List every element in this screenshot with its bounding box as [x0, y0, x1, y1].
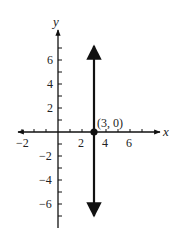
- y-tick-label: −6: [39, 197, 52, 211]
- x-axis-label: x: [162, 124, 169, 139]
- y-tick-label: −4: [39, 173, 52, 187]
- point-label: (3, 0): [97, 116, 123, 130]
- x-tick-label: 6: [126, 136, 132, 150]
- x-tick-label: 2: [78, 136, 84, 150]
- y-tick-label: 2: [47, 101, 53, 115]
- y-tick-label: 6: [47, 53, 53, 67]
- coordinate-plane: y x −2 2 4 6 6 4 2 −2 −4 −6 (3, 0): [0, 0, 174, 228]
- y-tick-label: 4: [47, 77, 53, 91]
- y-axis-label: y: [51, 14, 59, 29]
- x-tick-label: −2: [16, 136, 29, 150]
- x-tick-label: 4: [102, 136, 108, 150]
- y-tick-label: −2: [39, 149, 52, 163]
